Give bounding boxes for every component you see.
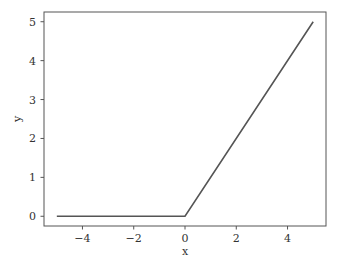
x-tick-label: −4 (74, 232, 90, 245)
chart-figure: −4−2024012345xy (0, 0, 342, 268)
y-tick-label: 5 (29, 16, 36, 29)
axes-frame (44, 12, 326, 226)
y-tick-label: 0 (29, 210, 36, 223)
x-tick-label: −2 (126, 232, 142, 245)
x-tick-label: 2 (233, 232, 240, 245)
y-tick-label: 2 (29, 132, 36, 145)
y-tick-label: 4 (29, 55, 36, 68)
y-axis-label: y (11, 115, 24, 123)
y-tick-label: 3 (29, 94, 36, 107)
x-tick-label: 0 (182, 232, 189, 245)
series-line (57, 22, 313, 217)
x-axis-label: x (182, 245, 189, 258)
relu-chart: −4−2024012345xy (0, 0, 342, 268)
x-tick-label: 4 (284, 232, 291, 245)
y-tick-label: 1 (29, 171, 36, 184)
